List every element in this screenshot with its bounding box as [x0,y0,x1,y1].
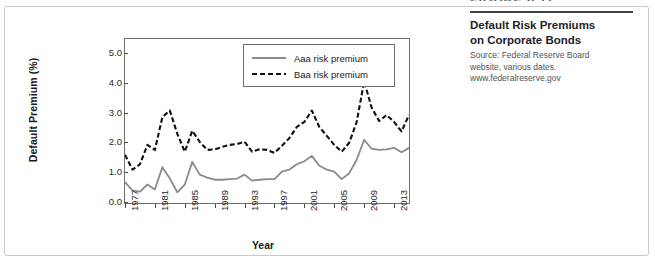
y-tick-label: 2.0 [96,136,122,147]
x-tick-mark [245,204,246,208]
x-tick-mark [364,204,365,208]
figure-number: FIGURE 6.11 [470,0,554,1]
figure-title: Default Risk Premiums on Corporate Bonds [470,18,636,47]
x-tick-label: 1977 [129,190,140,211]
x-tick-label: 2001 [308,190,319,211]
legend-label-aaa: Aaa risk premium [294,53,368,64]
x-tick-mark [185,204,186,208]
x-tick-label: 1993 [249,190,260,211]
x-tick-label: 2005 [338,190,349,211]
legend-label-baa: Baa risk premium [294,69,368,80]
y-tick-mark [124,202,128,203]
x-tick-mark [304,204,305,208]
x-tick-label: 1997 [278,190,289,211]
y-tick-label: 4.0 [96,77,122,88]
y-axis-tick-labels: 0.01.02.03.04.05.0 [92,38,122,204]
x-axis-title: Year [118,239,408,251]
legend-item-aaa: Aaa risk premium [250,50,388,66]
y-tick-mark [124,142,128,143]
sidebar: FIGURE 6.11 Default Risk Premiums on Cor… [470,0,640,262]
x-tick-mark [394,204,395,208]
x-tick-label: 1989 [219,190,230,211]
y-tick-label: 5.0 [96,47,122,58]
x-tick-mark [274,204,275,208]
figure-title-line-1: Default Risk Premiums [470,19,595,31]
figure-source: Source: Federal Reserve Board website, v… [470,50,620,85]
series-line-baa [125,81,409,169]
x-tick-label: 2009 [368,190,379,211]
figure-title-line-2: on Corporate Bonds [470,34,581,46]
x-tick-label: 2013 [398,190,409,211]
x-tick-mark [334,204,335,208]
series-line-aaa [125,140,409,192]
sidebar-divider [470,11,633,13]
chart-panel: Default Premium (%) 0.01.02.03.04.05.0 Y… [0,0,452,262]
y-tick-label: 0.0 [96,196,122,207]
y-tick-mark [124,172,128,173]
x-tick-mark [155,204,156,208]
x-tick-label: 1981 [159,190,170,211]
y-tick-label: 1.0 [96,166,122,177]
y-axis-title: Default Premium (%) [27,35,39,185]
legend-swatch-solid-icon [250,53,288,63]
y-tick-mark [124,113,128,114]
y-tick-label: 3.0 [96,107,122,118]
legend-item-baa: Baa risk premium [250,66,388,82]
y-tick-mark [124,83,128,84]
chart-legend: Aaa risk premium Baa risk premium [243,44,395,87]
x-tick-label: 1985 [189,190,200,211]
x-tick-mark [215,204,216,208]
x-tick-mark [125,204,126,208]
y-tick-mark [124,53,128,54]
legend-swatch-dashed-icon [250,69,288,79]
